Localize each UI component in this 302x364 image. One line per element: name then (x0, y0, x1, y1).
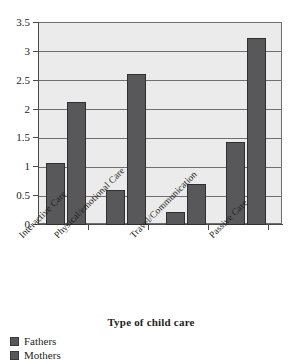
y-axis-label: 3.5 (16, 17, 30, 28)
legend-label-fathers: Fathers (24, 336, 56, 347)
bar-mothers-travel-communication (187, 184, 206, 225)
bar-mothers-physical-emotional-care (127, 74, 146, 225)
legend-swatch-icon (10, 351, 19, 360)
x-axis-title: Type of child care (0, 316, 302, 328)
legend-item-mothers: Mothers (10, 348, 61, 362)
bar-fathers-travel-communication (166, 212, 185, 225)
y-axis-tick (33, 51, 39, 52)
y-axis-label: 2.5 (16, 75, 30, 86)
y-axis-tick (33, 195, 39, 196)
y-axis-tick (33, 166, 39, 167)
legend-item-fathers: Fathers (10, 334, 61, 348)
gridline (39, 51, 281, 52)
y-axis-label: 3 (25, 46, 31, 57)
x-axis-tick (88, 225, 89, 230)
x-axis-tick (268, 225, 269, 230)
y-axis-label: 1.5 (16, 132, 30, 143)
y-axis-tick (33, 137, 39, 138)
y-axis-label: 1 (25, 161, 31, 172)
bar-chart: 3.5 3 2.5 2 1.5 1 0.5 0 Interactive Care… (0, 0, 302, 364)
legend-swatch-icon (10, 337, 19, 346)
legend-label-mothers: Mothers (24, 350, 61, 361)
y-axis-label: 2 (25, 104, 31, 115)
legend: Fathers Mothers (10, 334, 61, 362)
bar-mothers-passive-care (247, 38, 266, 225)
gridline (39, 80, 281, 81)
y-axis-tick (33, 109, 39, 110)
bar-fathers-physical-emotional-care (106, 190, 125, 225)
y-axis-tick (33, 80, 39, 81)
y-axis-label: 0.5 (16, 190, 30, 201)
y-axis-tick (33, 22, 39, 23)
